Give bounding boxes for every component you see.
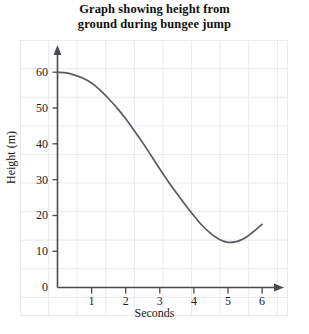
- y-axis-arrow-icon: [54, 45, 62, 55]
- x-axis-arrow-icon: [274, 284, 284, 292]
- y-tick-label-30: 30: [22, 173, 48, 188]
- y-tick-label-40: 40: [22, 137, 48, 152]
- y-tick-label-0: 0: [22, 280, 48, 295]
- x-axis-title: Seconds: [0, 306, 309, 321]
- y-tick-label-50: 50: [22, 101, 48, 116]
- y-tick-label-10: 10: [22, 244, 48, 259]
- y-axis-title: Height (m): [4, 123, 19, 193]
- y-tick-label-20: 20: [22, 208, 48, 223]
- height-curve: [58, 72, 263, 242]
- chart-figure: Graph showing height from ground during …: [0, 0, 309, 334]
- y-tick-label-60: 60: [22, 65, 48, 80]
- x-axis-ticks: [92, 288, 263, 294]
